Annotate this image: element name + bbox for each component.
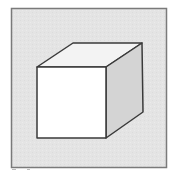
cube-front-face	[37, 67, 106, 138]
caption-fragment	[12, 169, 32, 171]
cube-diagram	[0, 0, 178, 174]
